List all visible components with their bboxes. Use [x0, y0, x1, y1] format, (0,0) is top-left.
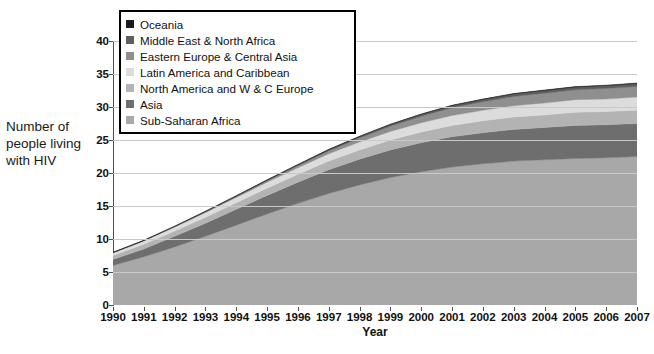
- legend-item-label: Sub-Saharan Africa: [140, 114, 241, 127]
- x-axis-tick-label: 2002: [470, 311, 496, 323]
- x-axis-tick-mark: [175, 307, 176, 311]
- y-axis-tick-label: 15: [83, 200, 109, 212]
- y-axis-tick-label: 5: [83, 266, 109, 278]
- chart-figure: Number of people living with HIV Million…: [0, 0, 654, 354]
- x-axis-tick-mark: [575, 307, 576, 311]
- legend-item[interactable]: Asia: [126, 96, 354, 112]
- legend-item[interactable]: Eastern Europe & Central Asia: [126, 48, 354, 64]
- legend-item[interactable]: Sub-Saharan Africa: [126, 112, 354, 128]
- y-axis-tick-label: 20: [83, 167, 109, 179]
- y-axis-unit-wrapper: Millions: [62, 38, 76, 98]
- x-axis-tick-label: 1997: [316, 311, 342, 323]
- y-axis-tick-label: 35: [83, 68, 109, 80]
- legend-item-label: North America and W & C Europe: [140, 82, 313, 95]
- x-axis-tick-mark: [360, 307, 361, 311]
- x-axis-tick-label: 1998: [347, 311, 373, 323]
- gridline: [113, 140, 637, 141]
- gridline: [113, 206, 637, 207]
- legend-swatch-icon: [126, 20, 134, 28]
- x-axis-tick-label: 1994: [223, 311, 249, 323]
- x-axis-tick-label: 2001: [439, 311, 465, 323]
- x-axis-tick-mark: [298, 307, 299, 311]
- legend-swatch-icon: [126, 52, 134, 60]
- x-axis-tick-mark: [545, 307, 546, 311]
- x-axis-tick-label: 1996: [285, 311, 311, 323]
- legend-swatch-icon: [126, 84, 134, 92]
- x-axis-tick-mark: [267, 307, 268, 311]
- gridline: [113, 173, 637, 174]
- x-axis-tick-label: 2000: [408, 311, 434, 323]
- x-axis-ticks: 1990199119921993199419951996199719981999…: [113, 307, 637, 327]
- x-axis-tick-label: 1991: [131, 311, 157, 323]
- x-axis-tick-mark: [113, 307, 114, 311]
- y-axis-tick-label: 40: [83, 35, 109, 47]
- x-axis-tick-mark: [205, 307, 206, 311]
- y-axis-tick-label: 30: [83, 101, 109, 113]
- y-axis-tick-label: 10: [83, 233, 109, 245]
- x-axis-tick-mark: [390, 307, 391, 311]
- legend-item-label: Latin America and Caribbean: [140, 66, 290, 79]
- gridline: [113, 272, 637, 273]
- x-axis-tick-label: 2004: [532, 311, 558, 323]
- gridline: [113, 239, 637, 240]
- x-axis-tick-mark: [637, 307, 638, 311]
- x-axis-tick-label: 2007: [624, 311, 650, 323]
- legend-swatch-icon: [126, 36, 134, 44]
- x-axis-tick-mark: [329, 307, 330, 311]
- y-axis-tick-label: 0: [83, 299, 109, 311]
- legend-item[interactable]: Latin America and Caribbean: [126, 64, 354, 80]
- x-axis-tick-label: 2005: [563, 311, 589, 323]
- x-axis-tick-label: 1995: [254, 311, 280, 323]
- y-axis-tick-label: 25: [83, 134, 109, 146]
- legend-item[interactable]: Middle East & North Africa: [126, 32, 354, 48]
- legend-item-label: Eastern Europe & Central Asia: [140, 50, 297, 63]
- legend-swatch-icon: [126, 68, 134, 76]
- y-axis-tick-mark: [109, 305, 114, 306]
- legend-item-label: Middle East & North Africa: [140, 34, 275, 47]
- x-axis-tick-mark: [236, 307, 237, 311]
- x-axis-tick-mark: [606, 307, 607, 311]
- x-axis-title: Year: [113, 325, 637, 339]
- legend-item-label: Asia: [140, 98, 163, 111]
- legend-swatch-icon: [126, 100, 134, 108]
- x-axis-tick-mark: [483, 307, 484, 311]
- x-axis-tick-mark: [144, 307, 145, 311]
- x-axis-tick-label: 2006: [593, 311, 619, 323]
- chart-legend: OceaniaMiddle East & North AfricaEastern…: [119, 10, 356, 134]
- legend-item-label: Oceania: [140, 18, 183, 31]
- x-axis-tick-label: 1999: [378, 311, 404, 323]
- figure-caption: [8, 343, 646, 353]
- legend-swatch-icon: [126, 116, 134, 124]
- x-axis-tick-label: 1990: [100, 311, 126, 323]
- legend-item[interactable]: Oceania: [126, 16, 354, 32]
- legend-item[interactable]: North America and W & C Europe: [126, 80, 354, 96]
- x-axis-tick-label: 1992: [162, 311, 188, 323]
- x-axis-tick-label: 1993: [193, 311, 219, 323]
- x-axis-tick-mark: [452, 307, 453, 311]
- x-axis-tick-mark: [514, 307, 515, 311]
- x-axis-tick-mark: [421, 307, 422, 311]
- x-axis-tick-label: 2003: [501, 311, 527, 323]
- y-axis-ticks: 0510152025303540: [79, 41, 109, 305]
